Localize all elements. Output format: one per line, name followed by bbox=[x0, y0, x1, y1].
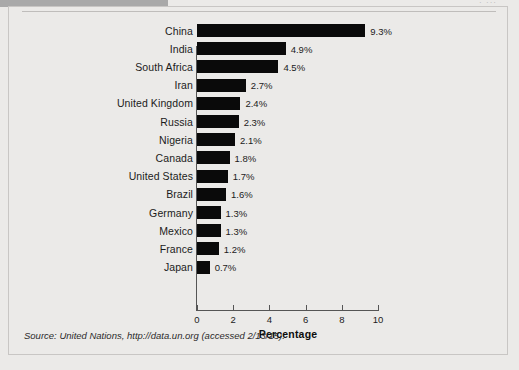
bar-value-label: 0.7% bbox=[215, 262, 237, 273]
bar bbox=[197, 242, 219, 255]
bar bbox=[197, 24, 365, 37]
bar-category-label: India bbox=[170, 43, 193, 55]
bar-category-label: Japan bbox=[164, 261, 193, 273]
bar-value-label: 4.9% bbox=[291, 43, 313, 54]
x-axis-tick bbox=[378, 305, 379, 310]
bar-row: France1.2% bbox=[0, 242, 519, 255]
x-axis-tick bbox=[233, 305, 234, 310]
top-divider-rule bbox=[22, 11, 496, 12]
bar-row: South Africa4.5% bbox=[0, 60, 519, 73]
source-note: Source: United Nations, http://data.un.o… bbox=[24, 330, 285, 341]
x-axis-line bbox=[196, 310, 379, 311]
x-axis-tick bbox=[269, 305, 270, 310]
bar-value-label: 1.8% bbox=[235, 152, 257, 163]
bar-category-label: Germany bbox=[149, 207, 193, 219]
bar-row: Mexico1.3% bbox=[0, 224, 519, 237]
bar-value-label: 2.1% bbox=[240, 134, 262, 145]
x-axis-tick bbox=[306, 305, 307, 310]
bar-row: China9.3% bbox=[0, 24, 519, 37]
bar-category-label: United Kingdom bbox=[117, 97, 193, 109]
x-axis-tick bbox=[342, 305, 343, 310]
bar bbox=[197, 261, 210, 274]
x-axis-tick-label: 2 bbox=[231, 314, 236, 325]
bar bbox=[197, 115, 239, 128]
bar bbox=[197, 170, 228, 183]
bar-row: Iran2.7% bbox=[0, 79, 519, 92]
bar bbox=[197, 97, 240, 110]
bar-category-label: France bbox=[160, 243, 193, 255]
bar-category-label: United States bbox=[129, 170, 193, 182]
bar bbox=[197, 206, 221, 219]
bar-row: Brazil1.6% bbox=[0, 188, 519, 201]
bar-row: United Kingdom2.4% bbox=[0, 97, 519, 110]
bar-value-label: 1.6% bbox=[231, 189, 253, 200]
bar-category-label: Nigeria bbox=[159, 134, 193, 146]
y-axis-line bbox=[196, 46, 197, 310]
bar bbox=[197, 224, 221, 237]
bar-row: Germany1.3% bbox=[0, 206, 519, 219]
bar-chart: China9.3%India4.9%South Africa4.5%Iran2.… bbox=[0, 22, 519, 292]
bar-row: Nigeria2.1% bbox=[0, 133, 519, 146]
x-axis-tick-label: 8 bbox=[339, 314, 344, 325]
bar-value-label: 2.3% bbox=[244, 116, 266, 127]
bar-value-label: 1.3% bbox=[226, 225, 248, 236]
bar-category-label: Brazil bbox=[166, 188, 193, 200]
bar-value-label: 4.5% bbox=[283, 61, 305, 72]
bar-row: Canada1.8% bbox=[0, 151, 519, 164]
x-axis-tick-label: 4 bbox=[267, 314, 272, 325]
bar-value-label: 1.2% bbox=[224, 243, 246, 254]
bar-row: Russia2.3% bbox=[0, 115, 519, 128]
x-axis-tick-label: 0 bbox=[194, 314, 199, 325]
x-axis-tick-label: 10 bbox=[373, 314, 384, 325]
bar bbox=[197, 60, 278, 73]
bar-value-label: 1.3% bbox=[226, 207, 248, 218]
bar-category-label: China bbox=[165, 25, 193, 37]
x-axis-tick bbox=[197, 305, 198, 310]
bar bbox=[197, 79, 246, 92]
x-axis-tick-label: 6 bbox=[303, 314, 308, 325]
bar-category-label: South Africa bbox=[135, 61, 193, 73]
bar bbox=[197, 133, 235, 146]
bar-row: India4.9% bbox=[0, 42, 519, 55]
bar-category-label: Canada bbox=[156, 152, 193, 164]
bar-value-label: 2.7% bbox=[251, 80, 273, 91]
bar-value-label: 9.3% bbox=[370, 25, 392, 36]
bar-category-label: Mexico bbox=[159, 225, 193, 237]
bar bbox=[197, 42, 286, 55]
bar bbox=[197, 151, 230, 164]
bar-value-label: 1.7% bbox=[233, 171, 255, 182]
bar-category-label: Iran bbox=[175, 79, 194, 91]
bar bbox=[197, 188, 226, 201]
bar-category-label: Russia bbox=[160, 116, 193, 128]
bar-row: United States1.7% bbox=[0, 170, 519, 183]
bar-row: Japan0.7% bbox=[0, 261, 519, 274]
bar-value-label: 2.4% bbox=[245, 98, 267, 109]
